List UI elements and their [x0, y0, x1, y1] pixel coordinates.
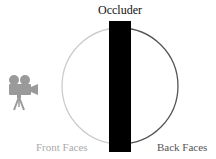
front-faces-label: Front Faces — [36, 141, 88, 153]
diagram-canvas — [0, 0, 216, 159]
occluder-block — [109, 21, 131, 152]
back-faces-label: Back Faces — [157, 141, 207, 153]
camera-icon — [9, 75, 38, 110]
occluder-label: Occluder — [98, 3, 142, 18]
